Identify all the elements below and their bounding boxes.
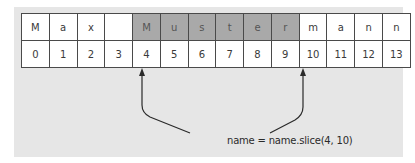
arrow-end-index-icon	[270, 74, 303, 133]
slice-caption: name = name.slice(4, 10)	[227, 135, 353, 146]
arrowhead-start-icon	[139, 68, 145, 76]
arrowhead-end-icon	[300, 68, 306, 76]
arrow-start-index-icon	[142, 74, 190, 133]
